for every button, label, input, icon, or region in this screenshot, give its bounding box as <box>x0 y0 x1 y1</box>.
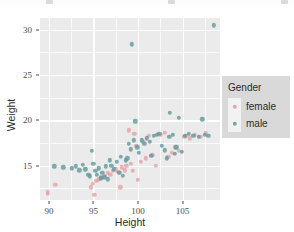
data-point-male <box>164 156 168 160</box>
data-point-male <box>52 164 56 168</box>
data-point-female <box>154 163 158 167</box>
data-point-female <box>136 178 140 182</box>
y-tick-label: 15 <box>10 161 32 171</box>
legend-key-male[interactable] <box>228 115 241 132</box>
scatter-plot: 15202530 9095100105 Weight Height Gender… <box>0 8 294 232</box>
legend: Gender female male <box>222 76 290 138</box>
legend-key-female[interactable] <box>228 98 241 115</box>
data-point-male <box>104 164 108 168</box>
legend-title: Gender <box>228 82 261 93</box>
data-point-male <box>130 42 134 46</box>
data-point-male <box>88 174 92 178</box>
top-strip-smudge <box>46 0 53 4</box>
y-axis-title: Weight <box>5 80 17 150</box>
grid-line <box>40 30 220 31</box>
data-point-female <box>118 185 122 189</box>
grid-line <box>40 98 220 99</box>
data-point-male <box>147 140 151 144</box>
grid-line <box>40 188 220 189</box>
data-point-male <box>168 111 172 115</box>
data-point-male <box>171 133 175 137</box>
legend-swatch-male-icon <box>232 121 236 125</box>
chart-screenshot: 15202530 9095100105 Weight Height Gender… <box>0 0 294 232</box>
top-strip-smudge <box>168 0 175 4</box>
data-point-male <box>177 115 181 119</box>
data-point-male <box>77 168 81 172</box>
x-tick-mark <box>138 201 139 204</box>
grid-line <box>183 18 184 200</box>
data-point-female <box>127 128 131 132</box>
data-point-female <box>144 156 148 160</box>
top-strip-smudge <box>281 0 288 4</box>
x-tick-mark <box>182 201 183 204</box>
data-point-male <box>172 152 176 156</box>
grid-line <box>40 120 220 121</box>
grid-line <box>138 18 139 200</box>
data-point-female <box>92 192 96 196</box>
data-point-female <box>108 172 112 176</box>
data-point-male <box>163 148 167 152</box>
legend-swatch-female-icon <box>232 104 236 108</box>
data-point-male <box>125 156 129 160</box>
data-point-male <box>83 167 87 171</box>
data-point-male <box>149 153 153 157</box>
legend-label-female: female <box>246 98 276 115</box>
data-point-male <box>212 23 216 27</box>
grid-line <box>160 18 161 200</box>
y-tick-label: 25 <box>10 70 32 80</box>
data-point-male <box>133 119 137 123</box>
x-axis-title: Height <box>40 216 220 228</box>
data-point-male <box>61 165 65 169</box>
data-point-male <box>142 142 146 146</box>
plot-panel <box>40 18 220 200</box>
y-tick-mark <box>36 29 39 30</box>
grid-line <box>40 166 220 167</box>
grid-line <box>40 75 220 76</box>
grid-line <box>27 18 28 200</box>
legend-key-boxes <box>228 98 241 132</box>
data-point-male <box>131 138 135 142</box>
data-point-female <box>130 169 134 173</box>
y-tick-mark <box>36 75 39 76</box>
data-point-male <box>114 160 118 164</box>
data-point-male <box>191 134 195 138</box>
x-tick-mark <box>48 201 49 204</box>
grid-line <box>49 18 50 200</box>
x-tick-label: 100 <box>125 206 151 216</box>
data-point-male <box>127 142 131 146</box>
data-point-male <box>106 177 110 181</box>
x-tick-mark <box>93 201 94 204</box>
y-tick-label: 30 <box>10 25 32 35</box>
data-point-female <box>89 185 93 189</box>
grid-line <box>40 52 220 53</box>
data-point-female <box>53 182 57 186</box>
y-tick-mark <box>36 165 39 166</box>
data-point-male <box>137 151 141 155</box>
y-tick-mark <box>36 120 39 121</box>
data-point-female <box>132 132 136 136</box>
data-point-male <box>129 147 133 151</box>
data-point-female <box>122 168 126 172</box>
x-tick-label: 105 <box>170 206 196 216</box>
grid-line <box>205 18 206 200</box>
data-point-male <box>107 158 111 162</box>
grid-line <box>71 18 72 200</box>
cropped-top-strip <box>0 0 294 8</box>
data-point-male <box>206 134 210 138</box>
x-tick-label: 90 <box>36 206 62 216</box>
data-point-female <box>138 160 142 164</box>
legend-label-male: male <box>246 115 268 132</box>
data-point-male <box>121 173 125 177</box>
x-tick-label: 95 <box>80 206 106 216</box>
